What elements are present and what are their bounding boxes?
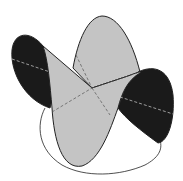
left-lobe <box>12 35 52 108</box>
surface-diagram <box>0 0 183 181</box>
